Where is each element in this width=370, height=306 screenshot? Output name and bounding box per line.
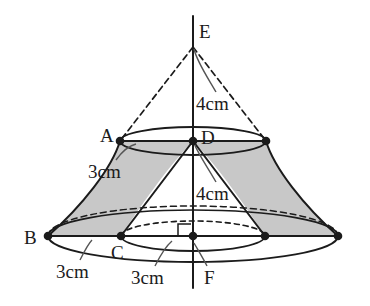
vertex-label-C: C [111,243,124,262]
vertex-dot-F [189,232,198,241]
vertex-dot-C [117,232,126,241]
vertex-label-A: A [100,126,114,145]
vertex-dot-bottom-inner-right [261,232,270,241]
geometry-figure: E A D B C F 4cm 3cm 4cm 3cm 3cm [0,0,370,306]
dimension-label-top-radius: 3cm [88,162,121,181]
dimension-label-upper-height: 4cm [196,94,229,113]
vertex-dot-top-right [262,137,271,146]
vertex-dot-D [189,137,198,146]
dimension-label-bottom-inner-radius: 3cm [131,268,164,287]
vertex-label-B: B [24,228,37,247]
vertex-dot-bottom-outer-right [334,232,343,241]
dimension-label-bottom-outer-radius: 3cm [56,262,89,281]
vertex-label-F: F [204,268,215,287]
vertex-dot-B [44,232,53,241]
leader-upper-height [194,49,216,92]
vertex-label-E: E [199,22,211,41]
leader-bottom-outer-radius [80,240,92,260]
vertex-label-D: D [201,128,215,147]
right-angle-marker [178,224,191,236]
dimension-label-lower-height: 4cm [196,184,229,203]
vertex-dot-A [116,137,125,146]
